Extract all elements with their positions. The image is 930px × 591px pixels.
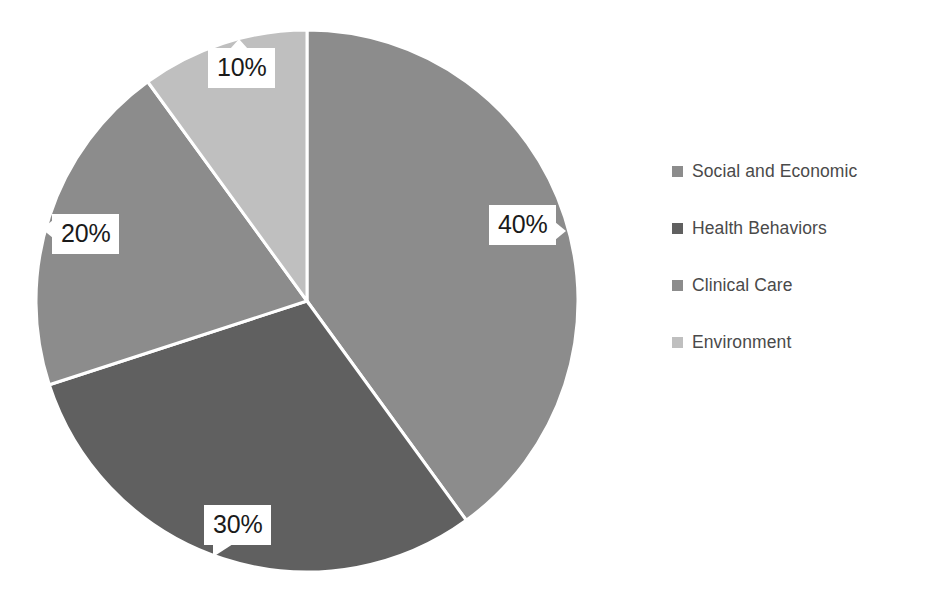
callout-tail-icon xyxy=(230,39,248,49)
callout-tail-icon xyxy=(555,222,566,240)
legend-swatch-icon xyxy=(672,280,683,291)
pie-chart: 40% 30% 20% 10% Social and Economic Heal… xyxy=(0,0,930,591)
legend-item-social-and-economic: Social and Economic xyxy=(672,158,922,184)
legend-swatch-icon xyxy=(672,337,683,348)
legend-item-label: Clinical Care xyxy=(692,275,793,296)
legend-item-clinical-care: Clinical Care xyxy=(672,272,922,298)
legend-item-environment: Environment xyxy=(672,329,922,355)
callout-tail-icon xyxy=(213,544,233,557)
data-label-value: 10% xyxy=(217,53,266,81)
legend-item-label: Social and Economic xyxy=(692,161,857,182)
legend-swatch-icon xyxy=(672,223,683,234)
chart-legend: Social and Economic Health Behaviors Cli… xyxy=(672,158,922,386)
callout-tail-icon xyxy=(42,220,53,238)
data-label-clinical-care: 20% xyxy=(52,214,119,254)
data-label-value: 40% xyxy=(498,210,547,238)
data-label-value: 20% xyxy=(61,219,110,247)
legend-item-label: Environment xyxy=(692,332,791,353)
pie-svg xyxy=(0,0,620,591)
pie-slices xyxy=(36,30,578,572)
legend-item-health-behaviors: Health Behaviors xyxy=(672,215,922,241)
pie-plot-area: 40% 30% 20% 10% xyxy=(0,0,620,591)
data-label-health-behaviors: 30% xyxy=(204,505,271,545)
legend-item-label: Health Behaviors xyxy=(692,218,827,239)
data-label-value: 30% xyxy=(213,510,262,538)
legend-swatch-icon xyxy=(672,166,683,177)
data-label-environment: 10% xyxy=(208,48,275,88)
data-label-social-and-economic: 40% xyxy=(489,205,556,245)
